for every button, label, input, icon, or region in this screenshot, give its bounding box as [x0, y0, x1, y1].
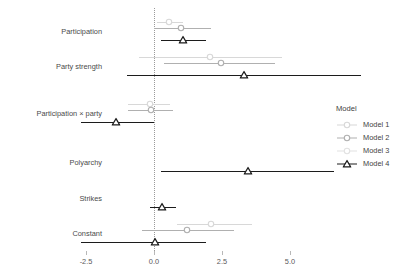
x-axis-tick-label: -2.5 — [80, 257, 93, 266]
x-axis-tick — [290, 251, 291, 255]
legend-key-marker — [343, 147, 351, 155]
legend-key-swatch — [336, 157, 358, 170]
x-axis-tick — [222, 251, 223, 255]
legend-item-label: Model 3 — [363, 146, 389, 155]
x-axis-tick-label: 2.5 — [217, 257, 227, 266]
legend-item-model-1[interactable]: Model 1 — [336, 118, 389, 131]
legend-key-marker — [343, 121, 351, 129]
legend-item-model-3[interactable]: Model 3 — [336, 144, 389, 157]
legend-key-marker — [343, 134, 351, 142]
legend-key-swatch — [336, 144, 358, 157]
legend-key-marker — [343, 159, 352, 168]
legend-item-label: Model 4 — [363, 159, 389, 168]
legend-item-label: Model 1 — [363, 120, 389, 129]
legend-key-swatch — [336, 131, 358, 144]
legend-item-label: Model 2 — [363, 133, 389, 142]
legend-key-swatch — [336, 118, 358, 131]
x-axis-tick-label: 5.0 — [285, 257, 295, 266]
legend: ModelModel 1Model 2Model 3Model 4 — [336, 104, 389, 170]
x-axis-tick — [154, 251, 155, 255]
x-axis-tick — [86, 251, 87, 255]
legend-title: Model — [336, 104, 389, 113]
coefficient-plot: ParticipationParty strengthParticipation… — [0, 0, 406, 276]
legend-item-model-2[interactable]: Model 2 — [336, 131, 389, 144]
legend-item-model-4[interactable]: Model 4 — [336, 157, 389, 170]
x-axis-tick-label: 0.0 — [149, 257, 159, 266]
